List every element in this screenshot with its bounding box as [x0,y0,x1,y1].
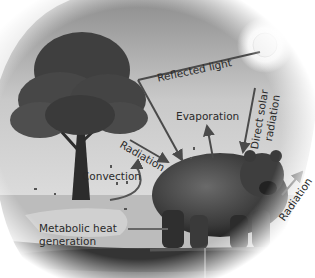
label-metabolic-heat-line2: generation [39,235,96,247]
label-evaporation: Evaporation [176,110,239,122]
label-metabolic-heat-line1: Metabolic heat [39,222,117,234]
label-convection: Convection [82,170,141,182]
